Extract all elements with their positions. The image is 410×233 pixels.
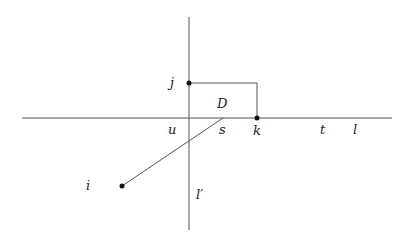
- label-D: D: [216, 96, 228, 111]
- label-u: u: [168, 122, 176, 137]
- label-j: j: [167, 75, 174, 90]
- label-l-prime: l′: [196, 187, 203, 202]
- label-i: i: [86, 178, 90, 193]
- label-t: t: [320, 122, 326, 137]
- label-s: s: [219, 122, 226, 137]
- point-i: [120, 184, 125, 189]
- geometry-diagram: j D u s k t l i l′: [0, 0, 410, 233]
- label-l: l: [353, 122, 357, 137]
- point-j: [187, 81, 192, 86]
- point-k: [255, 116, 260, 121]
- label-k: k: [253, 123, 261, 138]
